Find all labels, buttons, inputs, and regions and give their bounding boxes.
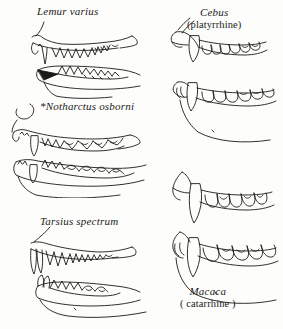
sciname-lemur: Lemur varius [37,6,98,18]
leader-line [36,22,44,36]
sciname-macaca: Macaca [180,286,236,298]
primate-dentition-figure: Lemur varius [0,0,283,329]
caption-cebus: Cebus (platyrrhine) [187,7,241,30]
sciname-cebus: Cebus [187,7,241,19]
leader-line [34,227,50,242]
caption-tarsius: Tarsius spectrum [40,216,118,228]
sciname-notharctus: *Notharctus osborni [40,101,134,113]
caption-lemur: Lemur varius [37,6,98,18]
panel-notharctus: *Notharctus osborni [0,98,160,198]
notharctus-jaw-drawing [0,98,160,198]
commonname-macaca: ( catarrhine ) [180,298,236,309]
panel-macaca: Macaca ( catarrhine ) [160,160,283,329]
leader-line [16,104,34,119]
caption-macaca: Macaca ( catarrhine ) [180,286,236,309]
sciname-tarsius: Tarsius spectrum [40,216,118,228]
panel-tarsius: Tarsius spectrum [0,210,160,329]
caption-notharctus: *Notharctus osborni [40,101,134,113]
commonname-cebus: (platyrrhine) [187,19,241,30]
panel-cebus: Cebus (platyrrhine) [160,0,283,150]
panel-lemur: Lemur varius [0,0,155,100]
